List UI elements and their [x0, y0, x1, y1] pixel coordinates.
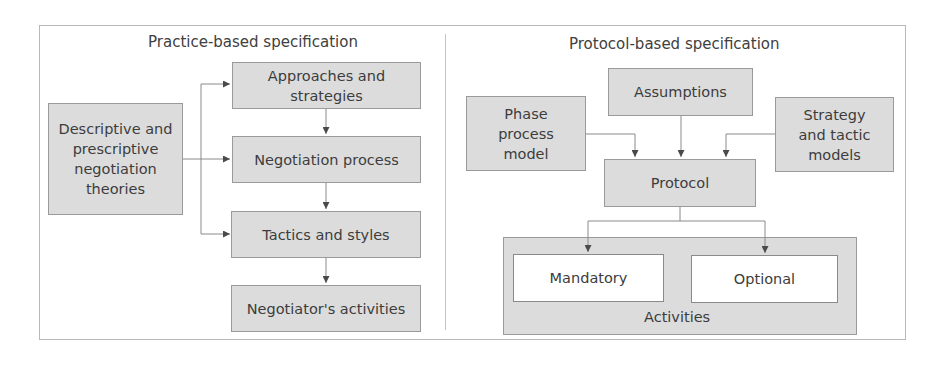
- connector-arrows: [0, 0, 946, 370]
- arrow-strategy-to-protocol: [726, 134, 775, 157]
- arrow-phase-to-protocol: [586, 134, 635, 157]
